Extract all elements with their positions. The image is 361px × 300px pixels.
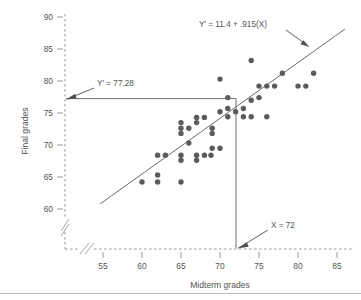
x-tick-label: 70	[215, 261, 225, 271]
data-point	[241, 114, 246, 119]
x-tick-label: 75	[254, 261, 264, 271]
given-x-label: X = 72	[271, 221, 295, 230]
scatter-points-group	[139, 58, 316, 185]
y-tick-group: 90 85 80 75 70 65 60	[44, 12, 63, 214]
x-tick-label: 80	[293, 261, 303, 271]
data-point	[249, 58, 254, 63]
data-point	[155, 153, 160, 158]
data-point	[249, 98, 254, 103]
x-tick-group: 55 60 65 70 75 80 85	[98, 252, 342, 271]
x-axis-break-icon	[80, 243, 94, 254]
data-point	[256, 83, 261, 88]
data-point	[163, 153, 168, 158]
data-point	[233, 109, 238, 114]
data-point	[178, 120, 183, 125]
data-point	[194, 120, 199, 125]
bottom-divider	[0, 293, 361, 294]
data-point	[194, 153, 199, 158]
data-point	[155, 179, 160, 184]
x-tick-label: 60	[137, 261, 147, 271]
data-point	[272, 83, 277, 88]
data-point	[264, 83, 269, 88]
data-point	[186, 126, 191, 131]
data-point	[225, 95, 230, 100]
data-point	[155, 172, 160, 177]
y-axis-title: Final grades	[20, 107, 30, 154]
y-tick-label: 85	[44, 44, 54, 54]
data-point	[295, 83, 300, 88]
data-point	[210, 146, 215, 151]
data-point	[280, 71, 285, 76]
data-point	[178, 179, 183, 184]
x-tick-label: 85	[332, 261, 342, 271]
y-tick-label: 80	[44, 76, 54, 86]
regression-equation-label: Y' = 11.4 + .915(X)	[199, 20, 267, 29]
scatter-plot-figure: 90 85 80 75 70 65 60 55 60 65 70	[0, 0, 361, 300]
data-point	[217, 109, 222, 114]
data-point	[178, 153, 183, 158]
data-point	[249, 114, 254, 119]
given-x-arrow-line	[245, 230, 268, 244]
data-point	[217, 76, 222, 81]
data-point	[194, 115, 199, 120]
data-point	[241, 106, 246, 111]
data-point	[225, 106, 230, 111]
predicted-y-arrow-head	[66, 94, 77, 100]
data-point	[202, 153, 207, 158]
y-tick-label: 75	[44, 108, 54, 118]
given-x-annotation: X = 72	[237, 221, 295, 249]
data-point	[178, 126, 183, 131]
data-point	[178, 158, 183, 163]
projection-group	[66, 99, 236, 248]
predicted-y-annotation: Y' = 77.28	[66, 79, 134, 100]
data-point	[210, 126, 215, 131]
data-point	[264, 114, 269, 119]
y-tick-label: 90	[44, 12, 54, 22]
data-point	[225, 114, 230, 119]
axis-group	[61, 14, 353, 254]
data-point	[303, 83, 308, 88]
x-tick-label: 55	[98, 261, 108, 271]
data-point	[178, 131, 183, 136]
x-tick-label: 65	[176, 261, 186, 271]
given-x-arrow-head	[237, 242, 249, 248]
y-tick-label: 60	[44, 204, 54, 214]
x-axis-title: Midterm grades	[190, 280, 250, 290]
chart-canvas: 90 85 80 75 70 65 60 55 60 65 70	[0, 0, 361, 300]
y-tick-label: 65	[44, 172, 54, 182]
data-point	[311, 71, 316, 76]
regression-line	[100, 29, 345, 204]
predicted-y-label: Y' = 77.28	[97, 79, 134, 88]
data-point	[217, 146, 222, 151]
data-point	[202, 115, 207, 120]
data-point	[210, 131, 215, 136]
data-point	[186, 140, 191, 145]
regression-equation-annotation: Y' = 11.4 + .915(X)	[199, 20, 310, 47]
data-point	[256, 95, 261, 100]
data-point	[139, 179, 144, 184]
y-tick-label: 70	[44, 140, 54, 150]
data-point	[194, 158, 199, 163]
data-point	[208, 153, 213, 158]
